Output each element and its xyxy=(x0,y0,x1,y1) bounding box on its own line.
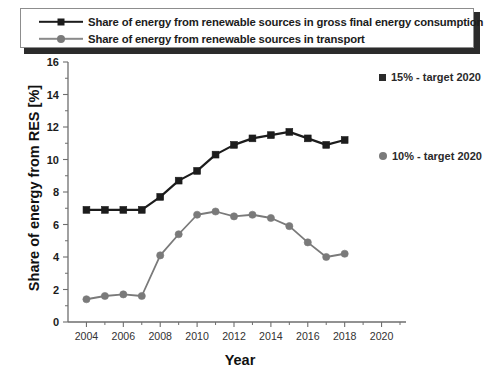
svg-text:12: 12 xyxy=(47,121,59,133)
svg-text:2004: 2004 xyxy=(75,330,99,342)
annotation-target-10: 10% - target 2020 xyxy=(379,150,482,162)
svg-text:0: 0 xyxy=(53,316,59,328)
square-marker-icon xyxy=(379,74,386,81)
axes: 0246810121416200420062008201020122014201… xyxy=(47,56,406,342)
svg-text:16: 16 xyxy=(47,56,59,68)
svg-text:6: 6 xyxy=(53,219,59,231)
plot-area: 0246810121416200420062008201020122014201… xyxy=(0,0,500,381)
chart-figure: Share of energy from renewable sources i… xyxy=(0,0,500,381)
svg-text:2016: 2016 xyxy=(296,330,320,342)
svg-text:8: 8 xyxy=(53,186,59,198)
svg-text:2020: 2020 xyxy=(370,330,394,342)
chart-svg: 0246810121416200420062008201020122014201… xyxy=(0,0,500,381)
svg-text:2012: 2012 xyxy=(222,330,246,342)
svg-text:2010: 2010 xyxy=(185,330,209,342)
svg-text:2: 2 xyxy=(53,284,59,296)
y-axis-title: Share of energy from RES [%] xyxy=(26,68,42,308)
svg-text:2018: 2018 xyxy=(333,330,357,342)
annotation-label-15: 15% - target 2020 xyxy=(391,71,481,83)
svg-text:4: 4 xyxy=(53,251,60,263)
circle-marker-icon xyxy=(379,152,387,160)
svg-text:2008: 2008 xyxy=(148,330,172,342)
svg-text:2014: 2014 xyxy=(259,330,283,342)
data-series xyxy=(83,128,348,302)
svg-text:2006: 2006 xyxy=(112,330,136,342)
annotation-label-10: 10% - target 2020 xyxy=(392,150,482,162)
x-axis-title: Year xyxy=(120,352,360,368)
svg-text:14: 14 xyxy=(47,89,60,101)
svg-text:10: 10 xyxy=(47,154,59,166)
annotation-target-15: 15% - target 2020 xyxy=(379,71,481,83)
